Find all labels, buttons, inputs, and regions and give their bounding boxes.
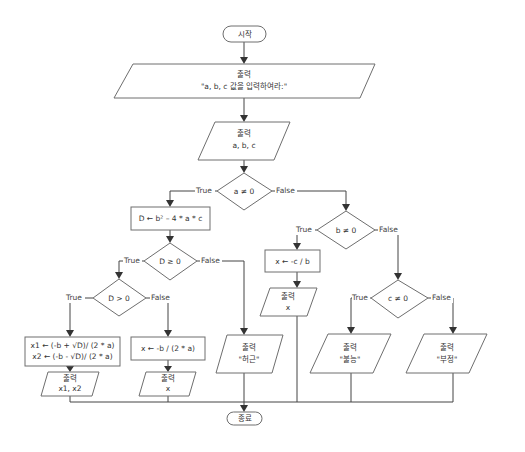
output-impossible-line2: "불능" <box>340 355 361 364</box>
compute-discriminant-node: D ← b² – 4 * a * c <box>131 207 210 230</box>
output-imaginary-line2: "허근" <box>239 355 260 364</box>
decision-d-gt-false-label: False <box>151 293 170 302</box>
compute-two-roots-line2: x2 ← (-b - √D)/ (2 * a) <box>32 352 112 361</box>
compute-linear-root-node: x ← -c / b <box>265 250 320 272</box>
output-one-root-line1: 출력 <box>161 373 175 383</box>
decision-a-false-label: False <box>276 186 295 195</box>
decision-c-label: c ≠ 0 <box>388 294 408 303</box>
input-abc-line1: 출력 <box>237 128 251 138</box>
output-impossible-node: 출력 "불능" <box>310 334 391 373</box>
end-terminal: 종료 <box>227 412 262 425</box>
decision-b-true-label: True <box>295 225 312 234</box>
decision-d-ge-false-label: False <box>201 256 220 265</box>
output-imaginary-node: 출력 "허근" <box>216 335 283 373</box>
prompt-output-line1: 출력 <box>237 69 251 79</box>
decision-b-false-label: False <box>379 225 398 234</box>
output-linear-root-node: 출력 x <box>260 288 317 316</box>
decision-c-true-label: True <box>351 293 368 302</box>
compute-two-roots-node: x1 ← (-b + √D)/ (2 * a) x2 ← (-b - √D)/ … <box>25 337 120 366</box>
end-label: 종료 <box>238 414 252 423</box>
compute-discriminant-label: D ← b² – 4 * a * c <box>139 214 203 223</box>
decision-d-nonnegative: D ≥ 0 <box>144 243 197 280</box>
output-two-roots-node: 출력 x1, x2 <box>41 372 99 396</box>
output-indeterminate-line1: 출력 <box>440 342 454 352</box>
decision-a-nonzero: a ≠ 0 <box>217 173 272 210</box>
decision-a-label: a ≠ 0 <box>234 187 255 196</box>
decision-d-ge-label: D ≥ 0 <box>159 257 181 266</box>
decision-d-gt-true-label: True <box>65 293 82 302</box>
prompt-output-node: 출력 "a, b, c 값을 입력하여라:" <box>114 64 375 98</box>
flowchart-canvas: 시작 출력 "a, b, c 값을 입력하여라:" 출력 a, b, c a ≠… <box>0 0 525 452</box>
decision-c-false-label: False <box>432 293 451 302</box>
start-label: 시작 <box>238 29 252 39</box>
output-indeterminate-node: 출력 "부정" <box>406 334 487 373</box>
output-linear-root-line1: 출력 <box>281 291 295 301</box>
decision-b-nonzero: b ≠ 0 <box>317 211 375 249</box>
output-linear-root-line2: x <box>286 303 291 312</box>
decision-d-gt-label: D > 0 <box>108 294 130 303</box>
compute-linear-root-label: x ← -c / b <box>275 257 310 266</box>
decision-a-true-label: True <box>195 186 212 195</box>
decision-d-ge-true-label: True <box>123 256 140 265</box>
compute-one-root-label: x ← -b / (2 * a) <box>141 344 195 353</box>
output-two-roots-line1: 출력 <box>63 373 77 383</box>
compute-one-root-node: x ← -b / (2 * a) <box>131 337 205 360</box>
input-abc-node: 출력 a, b, c <box>198 122 290 160</box>
compute-two-roots-line1: x1 ← (-b + √D)/ (2 * a) <box>31 341 115 350</box>
prompt-output-line2: "a, b, c 값을 입력하여라:" <box>201 81 287 91</box>
output-indeterminate-line2: "부정" <box>437 354 458 364</box>
output-one-root-line2: x <box>166 384 171 393</box>
output-two-roots-line2: x1, x2 <box>58 384 81 393</box>
output-impossible-line1: 출력 <box>343 342 357 352</box>
start-terminal: 시작 <box>223 26 266 42</box>
decision-c-nonzero: c ≠ 0 <box>371 280 428 318</box>
output-imaginary-line1: 출력 <box>242 342 256 352</box>
output-one-root-node: 출력 x <box>139 372 196 396</box>
input-abc-line2: a, b, c <box>232 141 255 150</box>
decision-b-label: b ≠ 0 <box>336 226 357 235</box>
decision-d-positive: D > 0 <box>93 279 146 316</box>
